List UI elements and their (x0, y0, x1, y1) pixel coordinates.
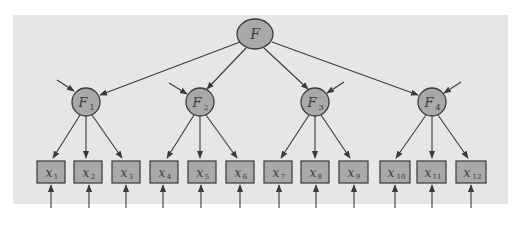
indicator-subscript: 3 (129, 173, 133, 181)
indicator-subscript: 12 (473, 173, 482, 181)
indicator-label: x (388, 166, 395, 180)
factor-node-F2: F 2 (186, 88, 214, 116)
factor-node-F1: F 1 (72, 88, 100, 116)
indicator-subscript: 1 (54, 173, 58, 181)
indicator-box-x9: x 9 (339, 161, 368, 183)
indicator-box-x11: x 11 (417, 161, 446, 183)
indicator-label: x (159, 166, 166, 180)
indicator-box-x12: x 12 (456, 161, 486, 183)
indicator-box-x5: x 5 (188, 161, 216, 183)
indicator-label: x (121, 166, 128, 180)
factor-model-diagram: F F 1 F 2 F 3 F 4 x 1 x 2 x 3 x 4 (0, 0, 519, 225)
indicator-label: x (83, 166, 90, 180)
factor-label: F (306, 95, 317, 110)
indicator-subscript: 6 (243, 173, 248, 181)
indicator-label: x (310, 166, 317, 180)
indicator-box-x1: x 1 (37, 161, 65, 183)
indicator-label: x (46, 166, 53, 180)
indicator-subscript: 9 (356, 173, 360, 181)
factor-label: F (423, 95, 434, 110)
indicator-box-x7: x 7 (264, 161, 292, 183)
factor-node-F4: F 4 (418, 88, 446, 116)
indicator-box-x10: x 10 (380, 161, 410, 183)
indicator-label: x (348, 166, 355, 180)
top-factor-node: F (237, 19, 273, 49)
factor-subscript: 3 (318, 103, 323, 112)
indicator-label: x (464, 166, 471, 180)
factor-subscript: 2 (203, 103, 208, 112)
factor-node-F3: F 3 (301, 88, 329, 116)
indicator-subscript: 11 (433, 173, 442, 181)
indicator-box-x8: x 8 (301, 161, 329, 183)
indicator-subscript: 8 (318, 173, 322, 181)
indicator-label: x (235, 166, 242, 180)
indicator-box-x3: x 3 (112, 161, 140, 183)
top-factor-label: F (249, 26, 261, 42)
indicator-subscript: 5 (205, 173, 209, 181)
indicator-subscript: 10 (397, 173, 406, 181)
indicator-label: x (197, 166, 204, 180)
indicator-box-x6: x 6 (226, 161, 254, 183)
factor-label: F (77, 95, 88, 110)
indicator-subscript: 4 (167, 173, 172, 181)
indicator-box-x4: x 4 (150, 161, 178, 183)
factor-subscript: 4 (435, 103, 440, 112)
indicator-subscript: 7 (281, 173, 285, 181)
indicator-subscript: 2 (91, 173, 95, 181)
factor-subscript: 1 (89, 103, 94, 112)
indicator-label: x (425, 166, 432, 180)
indicator-label: x (273, 166, 280, 180)
indicator-box-x2: x 2 (74, 161, 102, 183)
factor-label: F (191, 95, 202, 110)
